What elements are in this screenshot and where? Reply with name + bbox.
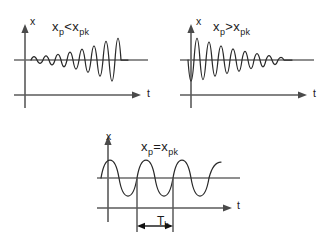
- panel-growing-oscillation: [0, 0, 165, 120]
- cond1-var1: x: [52, 19, 59, 34]
- x-axis-arrowhead: [223, 204, 232, 211]
- period-subscript: k: [164, 220, 168, 230]
- cond3-var1: x: [141, 139, 148, 154]
- x-axis-arrowhead: [132, 91, 141, 98]
- period-label: Tk: [157, 215, 169, 230]
- panel-decaying-condition-label: xp>xpk: [213, 20, 251, 37]
- x-axis-arrowhead: [298, 91, 307, 98]
- y-axis-arrowhead: [187, 24, 194, 33]
- panel-growing-y-axis-label: x: [30, 16, 35, 27]
- panel-decaying-svg: [166, 0, 331, 120]
- panel-decaying-x-axis-label: t: [313, 88, 316, 99]
- panel-steady-condition-label: xp=xpk: [141, 140, 179, 157]
- y-axis-arrowhead: [21, 24, 28, 33]
- panel-decaying-y-axis-label: x: [196, 16, 201, 27]
- panel-steady-y-axis-label: x: [106, 131, 111, 142]
- panel-growing-svg: [0, 0, 165, 120]
- panel-steady-x-axis-label: t: [237, 200, 240, 211]
- cond2-sub2: pk: [240, 27, 250, 37]
- panel-growing-condition-label: xp<xpk: [52, 20, 90, 37]
- cond2-var1: x: [213, 19, 220, 34]
- panel-decaying-oscillation: [166, 0, 331, 120]
- panel-growing-x-axis-label: t: [147, 88, 150, 99]
- cond1-sub2: pk: [79, 27, 89, 37]
- period-arrow-left: [137, 223, 145, 229]
- oscillation-regimes-figure: x t xp<xpk x t xp>xpk: [0, 0, 331, 247]
- cond3-sub2: pk: [168, 147, 178, 157]
